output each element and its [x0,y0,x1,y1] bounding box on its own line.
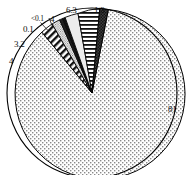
pie-slices [7,8,185,175]
pie-label-4-light: 4 [50,15,54,24]
pie-label-4-diagonal: 4 [9,57,13,66]
pie-chart-figure: 81 4 3.2 0.1 <0.1 4 6.3 1.3 [0,0,189,175]
pie-label-lt-0-1: <0.1 [31,15,44,23]
pie-label-3-2: 3.2 [14,40,25,49]
pie-label-6-3: 6.3 [66,6,77,15]
leader-line-0-1 [41,23,48,31]
pie-label-1-3: 1.3 [94,6,105,15]
pie-label-0-1: 0.1 [23,25,34,34]
pie-label-81: 81 [168,105,177,114]
